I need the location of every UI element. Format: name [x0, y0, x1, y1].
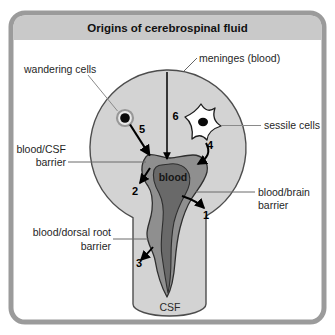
number-2: 2: [132, 185, 138, 197]
label-meninges: meninges (blood): [199, 52, 280, 64]
csf-origins-diagram: Origins of cerebrospinal fluid blood CSF: [0, 0, 335, 335]
label-sessile-cells: sessile cells: [264, 119, 320, 131]
number-6: 6: [173, 110, 179, 122]
label-blood-csf-barrier-line1: blood/CSF: [16, 143, 66, 155]
number-5: 5: [139, 123, 145, 135]
wandering-cell-icon: [117, 110, 133, 126]
blood-label: blood: [159, 171, 188, 183]
figure-panel: Origins of cerebrospinal fluid blood CSF: [0, 0, 335, 335]
sessile-cell-nucleus: [198, 118, 208, 126]
label-wandering-cells: wandering cells: [23, 63, 96, 75]
wandering-cell-body: [120, 113, 130, 123]
label-blood-dorsal-root-barrier-line2: barrier: [81, 240, 112, 252]
label-blood-csf-barrier-line2: barrier: [36, 156, 67, 168]
number-4: 4: [207, 139, 214, 151]
title-text: Origins of cerebrospinal fluid: [87, 22, 247, 34]
label-blood-dorsal-root-barrier-line1: blood/dorsal root: [33, 226, 111, 238]
csf-label: CSF: [160, 301, 181, 313]
number-3: 3: [136, 257, 142, 269]
label-blood-brain-barrier-line1: blood/brain: [258, 186, 310, 198]
number-1: 1: [203, 209, 209, 221]
label-blood-brain-barrier-line2: barrier: [258, 199, 289, 211]
